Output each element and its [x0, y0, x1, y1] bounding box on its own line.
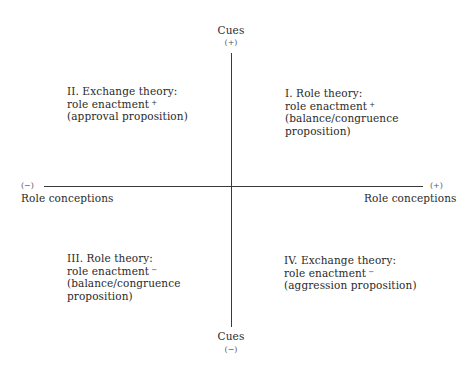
- quadrant-i-title: I. Role theory:: [285, 87, 399, 100]
- axis-sign-cues-negative: (−): [211, 345, 251, 355]
- quadrant-iv-enactment: role enactment−: [284, 267, 417, 280]
- axis-label-cues-bottom: Cues: [211, 330, 251, 343]
- quadrant-iii-enactment-text: role enactment: [67, 265, 149, 277]
- quadrant-iii-role-theory-balance: III. Role theory: role enactment− (balan…: [67, 252, 181, 302]
- quadrant-iii-proposition-1: (balance/congruence: [67, 277, 181, 290]
- quadrant-iv-enactment-text: role enactment: [284, 267, 366, 279]
- quadrant-ii-enactment-text: role enactment: [67, 98, 149, 110]
- axis-label-role-conceptions-left: Role conceptions: [21, 192, 114, 205]
- axis-sign-role-conceptions-negative: (−): [21, 181, 34, 191]
- quadrant-i-proposition-1: (balance/congruence: [285, 112, 399, 125]
- quadrant-i-enactment: role enactment+: [285, 100, 399, 113]
- quadrant-iii-proposition-2: proposition): [67, 290, 181, 303]
- quadrant-iv-enactment-sign: −: [368, 268, 374, 276]
- horizontal-axis-role-conceptions: [44, 186, 423, 187]
- quadrant-iii-title: III. Role theory:: [67, 252, 181, 265]
- quadrant-i-role-theory-balance: I. Role theory: role enactment+ (balance…: [285, 87, 399, 137]
- axis-sign-role-conceptions-positive: (+): [430, 181, 443, 191]
- quadrant-iv-proposition: (aggression proposition): [284, 279, 417, 292]
- quadrant-i-enactment-text: role enactment: [285, 100, 367, 112]
- quadrant-iii-enactment: role enactment−: [67, 265, 181, 278]
- quadrant-ii-title: II. Exchange theory:: [67, 85, 188, 98]
- axis-sign-cues-positive: (+): [211, 38, 251, 48]
- axis-label-cues-top: Cues: [211, 24, 251, 37]
- quadrant-i-enactment-sign: +: [369, 101, 375, 109]
- quadrant-ii-enactment: role enactment+: [67, 98, 188, 111]
- vertical-axis-cues: [231, 53, 232, 327]
- quadrant-ii-proposition: (approval proposition): [67, 110, 188, 123]
- quadrant-iv-exchange-theory-aggression: IV. Exchange theory: role enactment− (ag…: [284, 254, 417, 292]
- quadrant-iv-title: IV. Exchange theory:: [284, 254, 417, 267]
- quadrant-ii-enactment-sign: +: [151, 99, 157, 107]
- quadrant-ii-exchange-theory-approval: II. Exchange theory: role enactment+ (ap…: [67, 85, 188, 123]
- quadrant-i-proposition-2: proposition): [285, 125, 399, 138]
- quadrant-iii-enactment-sign: −: [151, 266, 157, 274]
- axis-label-role-conceptions-right: Role conceptions: [364, 192, 457, 205]
